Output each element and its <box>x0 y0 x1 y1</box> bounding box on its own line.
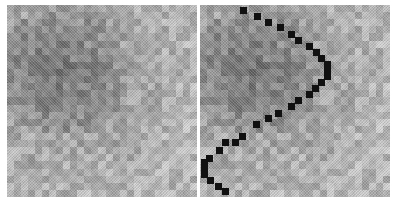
grid-cell <box>183 161 190 168</box>
grid-cell <box>84 55 91 62</box>
grid-cell <box>106 140 113 147</box>
grid-cell <box>299 62 306 69</box>
grid-cell <box>376 169 383 176</box>
grid-cell <box>355 48 362 55</box>
path-point <box>215 183 222 190</box>
path-point <box>275 110 282 117</box>
grid-cell <box>7 76 14 83</box>
grid-cell <box>277 55 284 62</box>
grid-cell <box>313 161 320 168</box>
grid-cell <box>169 90 176 97</box>
grid-cell <box>106 154 113 161</box>
grid-cell <box>207 112 214 119</box>
path-point <box>207 177 214 184</box>
grid-cell <box>256 133 263 140</box>
grid-cell <box>327 41 334 48</box>
grid-cell <box>263 169 270 176</box>
grid-cell <box>291 154 298 161</box>
grid-cell <box>28 5 35 12</box>
grid-cell <box>98 126 105 133</box>
grid-cell <box>91 83 98 90</box>
grid-cell <box>56 169 63 176</box>
grid-cell <box>35 133 42 140</box>
grid-cell <box>313 119 320 126</box>
grid-cell <box>291 161 298 168</box>
grid-cell <box>113 5 120 12</box>
grid-cell <box>28 69 35 76</box>
grid-cell <box>113 154 120 161</box>
grid-cell <box>148 83 155 90</box>
grid-cell <box>98 19 105 26</box>
grid-cell <box>77 183 84 190</box>
grid-cell <box>155 183 162 190</box>
grid-cell <box>14 161 21 168</box>
grid-cell <box>214 169 221 176</box>
grid-cell <box>320 119 327 126</box>
grid-cell <box>256 48 263 55</box>
grid-cell <box>214 90 221 97</box>
grid-cell <box>327 105 334 112</box>
grid-cell <box>77 41 84 48</box>
grid-cell <box>14 62 21 69</box>
grid-cell <box>63 90 70 97</box>
grid-cell <box>176 76 183 83</box>
grid-cell <box>106 161 113 168</box>
grid-cell <box>77 26 84 33</box>
grid-cell <box>277 48 284 55</box>
grid-cell <box>91 105 98 112</box>
grid-cell <box>249 147 256 154</box>
grid-cell <box>141 161 148 168</box>
grid-cell <box>63 55 70 62</box>
grid-cell <box>84 161 91 168</box>
grid-cell <box>106 126 113 133</box>
grid-cell <box>355 62 362 69</box>
grid-cell <box>320 169 327 176</box>
grid-cell <box>98 161 105 168</box>
grid-cell <box>28 83 35 90</box>
grid-cell <box>7 112 14 119</box>
grid-cell <box>242 176 249 183</box>
grid-cell <box>113 26 120 33</box>
grid-cell <box>183 126 190 133</box>
grid-cell <box>214 55 221 62</box>
grid-cell <box>98 90 105 97</box>
grid-cell <box>207 41 214 48</box>
grid-cell <box>113 119 120 126</box>
grid-cell <box>113 133 120 140</box>
grid-cell <box>207 12 214 19</box>
grid-cell <box>183 5 190 12</box>
grid-cell <box>277 161 284 168</box>
grid-cell <box>200 5 207 12</box>
grid-cell <box>256 5 263 12</box>
grid-cell <box>190 147 197 154</box>
grid-cell <box>70 12 77 19</box>
grid-cell <box>56 83 63 90</box>
grid-cell <box>190 169 197 176</box>
grid-cell <box>228 176 235 183</box>
grid-cell <box>369 12 376 19</box>
grid-cell <box>70 33 77 40</box>
grid-cell <box>190 119 197 126</box>
grid-cell <box>376 154 383 161</box>
grid-cell <box>35 126 42 133</box>
grid-cell <box>120 26 127 33</box>
grid-cell <box>369 90 376 97</box>
grid-cell <box>306 133 313 140</box>
grid-cell <box>207 55 214 62</box>
grid-cell <box>235 169 242 176</box>
grid-cell <box>376 76 383 83</box>
grid-cell <box>120 76 127 83</box>
grid-cell <box>214 19 221 26</box>
grid-cell <box>127 48 134 55</box>
grid-cell <box>49 112 56 119</box>
grid-cell <box>291 12 298 19</box>
grid-cell <box>362 105 369 112</box>
grid-cell <box>98 83 105 90</box>
grid-cell <box>155 154 162 161</box>
grid-cell <box>221 62 228 69</box>
grid-cell <box>249 69 256 76</box>
grid-cell <box>334 154 341 161</box>
grid-cell <box>376 97 383 104</box>
grid-cell <box>299 126 306 133</box>
grid-cell <box>214 97 221 104</box>
